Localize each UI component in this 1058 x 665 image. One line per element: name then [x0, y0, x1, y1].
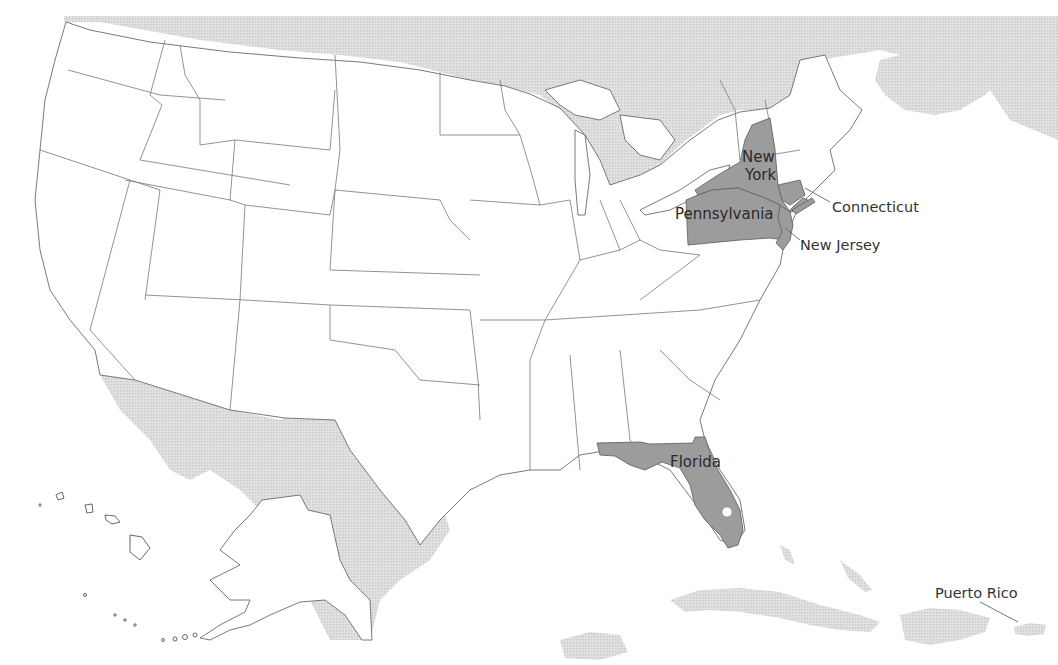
label-new-york-line2: York — [744, 166, 777, 184]
label-florida: Florida — [670, 453, 721, 471]
yucatan-landmass — [560, 632, 628, 660]
label-connecticut: Connecticut — [832, 199, 919, 215]
label-puerto-rico: Puerto Rico — [935, 585, 1018, 601]
label-pennsylvania: Pennsylvania — [675, 205, 774, 223]
cuba-landmass — [670, 588, 880, 632]
label-new-jersey: New Jersey — [800, 237, 881, 253]
label-new-york-line1: New — [742, 148, 775, 166]
bahamas-landmass — [780, 545, 872, 592]
aleutian-islands — [84, 594, 198, 642]
us-map: New York Pennsylvania Connecticut New Je… — [0, 0, 1058, 665]
lake-okeechobee — [722, 507, 732, 517]
state-hawaii — [39, 492, 150, 560]
puerto-rico-landmass — [1014, 623, 1046, 636]
hispaniola-landmass — [900, 608, 990, 645]
